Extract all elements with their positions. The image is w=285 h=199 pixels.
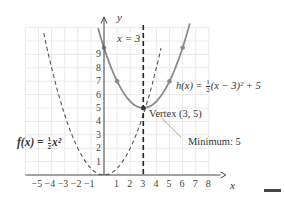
y-tick-label: 5 (96, 103, 101, 113)
fraction: 12 (48, 136, 52, 151)
x-tick-label: 1 (114, 179, 119, 189)
f-function-label: f(x) = 12x² (17, 136, 61, 151)
x-tick-label: 2 (127, 179, 132, 189)
y-tick-label: 8 (96, 63, 101, 73)
vertex-point (141, 106, 146, 111)
x-tick-label: −2 (71, 179, 82, 189)
y-tick-label: 3 (96, 130, 101, 140)
fraction: 12 (206, 79, 210, 94)
y-tick-label: 2 (96, 143, 101, 153)
y-tick-label: 9 (96, 49, 101, 59)
x-tick-label: −1 (84, 179, 95, 189)
y-tick-label: 4 (96, 116, 101, 126)
x-tick-label: −3 (58, 179, 69, 189)
x-tick-label: 3 (140, 179, 145, 189)
x-tick-label: −4 (45, 179, 56, 189)
x-tick-label: 7 (193, 179, 198, 189)
h-point (115, 79, 120, 84)
asymptote-label: x = 3 (116, 33, 141, 44)
h-point (167, 79, 172, 84)
graph-canvas (0, 0, 285, 199)
vertex-label: Vertex (3, 5) (149, 109, 202, 120)
x-axis-label: x (230, 180, 235, 191)
x-tick-label: 8 (206, 179, 211, 189)
x-tick-label: 4 (153, 179, 158, 189)
y-tick-label: 6 (96, 90, 101, 100)
minimum-label: Minimum: 5 (188, 137, 241, 148)
h-function-label: h(x) = 12(x − 3)² + 5 (176, 79, 261, 94)
h-point (180, 45, 185, 50)
x-tick-label: −5 (32, 179, 43, 189)
y-tick-label: 1 (96, 157, 101, 167)
x-tick-label: 6 (180, 179, 185, 189)
decorative-bar (264, 189, 281, 192)
y-axis-label: y (117, 12, 122, 23)
x-tick-label: 5 (167, 179, 172, 189)
y-tick-label: 7 (96, 76, 101, 86)
